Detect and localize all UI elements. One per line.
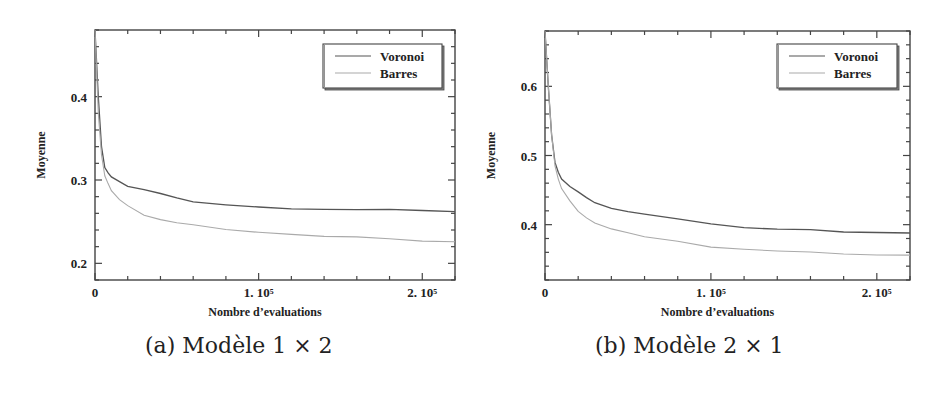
x-axis-title: Nombre d’evaluations [661,305,775,319]
caption-b: (b) Modèle 2 × 1 [595,333,784,358]
x-axis-title: Nombre d’evaluations [208,305,322,319]
legend-label-voronoi: Voronoi [834,49,878,64]
x-tick-label: 0 [92,285,99,300]
legend-label-voronoi: Voronoi [380,49,424,64]
y-tick-label: 0.6 [521,79,538,94]
chart-b: 0.40.50.601. 10⁵2. 10⁵Nombre d’evaluatio… [484,31,910,319]
x-tick-label: 1. 10⁵ [244,285,274,300]
figure-canvas: 0.20.30.401. 10⁵2. 10⁵Nombre d’evaluatio… [0,0,945,393]
caption-a: (a) Modèle 1 × 2 [145,333,333,358]
x-tick-label: 1. 10⁵ [696,285,726,300]
legend: VoronoiBarres [323,44,444,90]
y-tick-label: 0.4 [521,218,538,233]
legend-label-barres: Barres [834,66,871,81]
y-tick-label: 0.3 [71,173,88,188]
legend: VoronoiBarres [777,44,899,90]
y-axis-title: Moyenne [484,131,498,179]
y-tick-label: 0.2 [71,256,87,271]
chart-a: 0.20.30.401. 10⁵2. 10⁵Nombre d’evaluatio… [34,30,455,319]
y-tick-label: 0.5 [521,149,538,164]
y-tick-label: 0.4 [71,90,88,105]
legend-label-barres: Barres [380,66,417,81]
x-tick-label: 2. 10⁵ [862,285,892,300]
x-tick-label: 2. 10⁵ [407,285,437,300]
x-tick-label: 0 [542,285,549,300]
y-axis-title: Moyenne [34,131,48,179]
